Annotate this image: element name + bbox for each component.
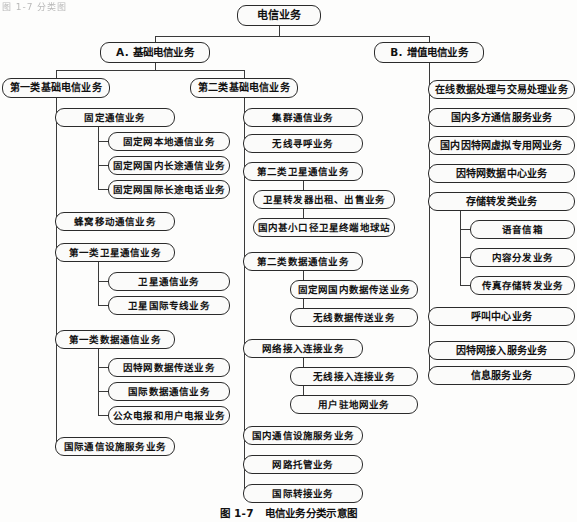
node-a2-3-1[interactable]: 卫星转发器出租、出售业务 <box>253 190 395 209</box>
figure-canvas: 图 1-7 分类图 电信业务A. 基础电信业务B. 增值电信业务第一类基础电信业… <box>0 0 577 522</box>
node-a1[interactable]: 第一类基础电信业务 <box>2 78 110 98</box>
node-b6[interactable]: 呼叫中心业务 <box>428 307 575 326</box>
node-b5-3[interactable]: 传真存储转发业务 <box>470 276 575 295</box>
node-b4[interactable]: 因特网数据中心业务 <box>428 164 575 183</box>
node-a1-1-3[interactable]: 固定网国际长途电话业务 <box>108 180 230 199</box>
node-b5-1[interactable]: 语音信箱 <box>470 220 575 239</box>
node-root[interactable]: 电信业务 <box>237 5 321 26</box>
node-a1-1-1[interactable]: 固定网本地通信业务 <box>108 132 230 151</box>
node-a2-7[interactable]: 网路托管业务 <box>243 455 363 474</box>
node-a2-5[interactable]: 网络接入连接业务 <box>243 339 363 358</box>
node-b5[interactable]: 存储转发类业务 <box>428 192 575 211</box>
node-a1-4-2[interactable]: 国际数据通信业务 <box>108 382 230 401</box>
node-a1-1[interactable]: 固定通信业务 <box>55 108 175 127</box>
node-a2[interactable]: 第二类基础电信业务 <box>190 78 298 98</box>
node-a1-4-3[interactable]: 公众电报和用户电报业务 <box>108 406 230 425</box>
node-a1-5[interactable]: 国际通信设施服务业务 <box>55 437 175 456</box>
node-b2[interactable]: 国内多方通信服务业务 <box>428 108 575 127</box>
node-b-value[interactable]: B. 增值电信业务 <box>374 42 484 63</box>
node-a2-5-1[interactable]: 无线接入连接业务 <box>290 367 418 386</box>
node-a1-3-2[interactable]: 卫星国际专线业务 <box>108 296 230 315</box>
node-a1-1-2[interactable]: 固定网国内长途通信业务 <box>108 156 230 175</box>
node-b7[interactable]: 因特网接入服务业务 <box>428 341 575 360</box>
figure-caption: 图 1-7 电信业务分类示意图 <box>0 505 577 520</box>
node-a1-4-1[interactable]: 因特网数据传送业务 <box>108 358 230 377</box>
node-a-basic[interactable]: A. 基础电信业务 <box>100 42 210 63</box>
node-b3[interactable]: 国内因特网虚拟专用网业务 <box>428 136 575 155</box>
node-a1-4[interactable]: 第一类数据通信业务 <box>55 330 175 349</box>
node-a2-3[interactable]: 第二类卫星通信业务 <box>243 162 363 181</box>
node-a2-4[interactable]: 第二类数据通信业务 <box>243 252 363 271</box>
node-a2-8[interactable]: 国际转接业务 <box>243 484 363 503</box>
node-b5-2[interactable]: 内容分发业务 <box>470 248 575 267</box>
node-a1-2[interactable]: 蜂窝移动通信业务 <box>55 212 175 231</box>
node-a2-6[interactable]: 国内通信设施服务业务 <box>243 426 363 445</box>
node-b8[interactable]: 信息服务业务 <box>428 366 575 385</box>
node-a1-3[interactable]: 第一类卫星通信业务 <box>55 243 175 262</box>
node-a2-3-2[interactable]: 国内甚小口径卫星终端地球站 <box>253 218 395 237</box>
node-a2-1[interactable]: 集群通信业务 <box>243 108 363 127</box>
node-b1[interactable]: 在线数据处理与交易处理业务 <box>428 80 575 99</box>
node-a2-4-2[interactable]: 无线数据传送业务 <box>290 308 418 327</box>
node-a2-5-2[interactable]: 用户驻地网业务 <box>290 395 418 414</box>
node-a2-2[interactable]: 无线寻呼业务 <box>243 134 363 153</box>
node-a2-4-1[interactable]: 固定网国内数据传送业务 <box>290 280 418 299</box>
node-a1-3-1[interactable]: 卫星通信业务 <box>108 272 230 291</box>
